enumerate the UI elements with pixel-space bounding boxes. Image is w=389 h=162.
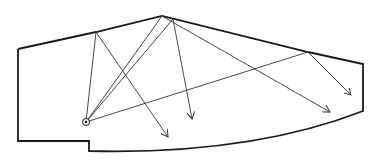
reflected-rays <box>96 16 351 137</box>
reflected-ray-arrow <box>162 16 330 112</box>
reflected-ray-arrow <box>96 32 168 137</box>
sound-source-icon <box>83 119 90 126</box>
acoustic-ray-diagram <box>0 0 389 162</box>
room-wall <box>18 16 363 151</box>
incident-rays <box>86 16 308 122</box>
incident-ray <box>86 32 96 122</box>
incident-ray <box>86 19 173 122</box>
reflected-ray-arrow <box>173 19 192 119</box>
source-dot <box>85 121 88 124</box>
room-outline <box>18 16 363 151</box>
diagram-canvas <box>0 0 389 162</box>
incident-ray <box>86 52 308 122</box>
reflected-ray-arrow <box>308 52 351 95</box>
